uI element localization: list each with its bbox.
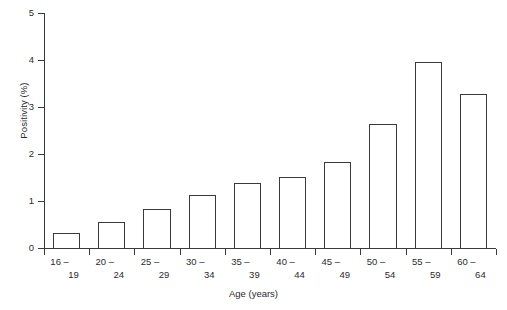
bar <box>189 195 216 248</box>
bar <box>53 233 80 248</box>
x-tick-label-upper: 64 <box>443 269 503 282</box>
bar <box>234 183 261 248</box>
bar <box>460 94 487 248</box>
bar <box>415 62 442 248</box>
x-tick-label-lower: 60 – <box>443 256 503 269</box>
bar <box>98 222 125 248</box>
x-axis-tick-label: 60 –64 <box>443 256 503 281</box>
x-axis-title: Age (years) <box>0 288 507 299</box>
bar-chart-figure: Positivity (%) 012345 16 –1920 –2425 –29… <box>0 0 507 310</box>
bar <box>279 177 306 248</box>
bar <box>369 124 396 248</box>
bar <box>324 162 351 248</box>
bar <box>143 209 170 248</box>
